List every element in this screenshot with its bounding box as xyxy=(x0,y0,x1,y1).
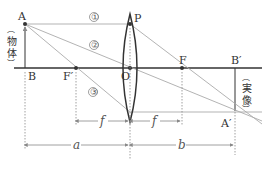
svg-text:︶: ︶ xyxy=(7,58,15,68)
label-F: F xyxy=(179,54,187,67)
label-P: P xyxy=(134,12,142,25)
label-B-prime: B′ xyxy=(231,54,242,67)
image-label-char1: 実 xyxy=(242,82,252,94)
label-F-prime: F′ xyxy=(63,70,74,83)
ray-2-label: ② xyxy=(91,40,99,50)
guide-lines xyxy=(25,28,235,160)
label-a: a xyxy=(73,138,80,152)
object-label-char1: 物 xyxy=(7,35,17,47)
ray-3-label: ③ xyxy=(90,87,98,97)
svg-text:︵: ︵ xyxy=(242,73,250,82)
ray-2 xyxy=(25,24,262,121)
ray-1-label: ① xyxy=(91,12,99,22)
image-label: ︵ 実 像 ︶ xyxy=(242,73,252,114)
point-P xyxy=(128,22,132,26)
object-label-char2: 体 xyxy=(7,48,17,59)
point-F-prime xyxy=(74,66,78,70)
label-O: O xyxy=(121,70,130,83)
label-b: b xyxy=(178,138,186,152)
label-A: A xyxy=(17,10,27,23)
label-B: B xyxy=(28,70,36,83)
svg-text:︵: ︵ xyxy=(7,25,15,34)
label-A-prime: A′ xyxy=(220,117,232,130)
svg-text:︶: ︶ xyxy=(242,104,250,114)
object-label: ︵ 物 体 ︶ xyxy=(7,25,17,68)
lens-diagram: A B F′ O F B′ A′ P ① ② ③ f f a b ︵ 物 体 ︶… xyxy=(0,0,267,171)
